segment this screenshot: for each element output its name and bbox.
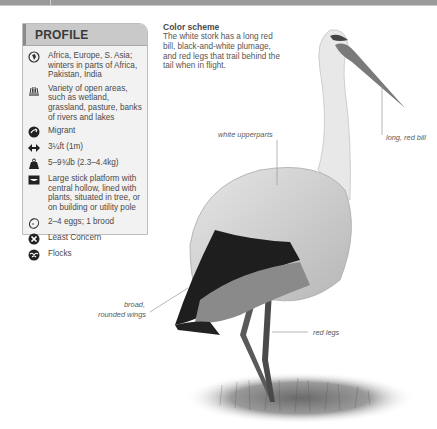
label-broad-wings-1: broad, <box>124 300 144 309</box>
label-long-red-bill: long, red bill <box>386 133 426 142</box>
white-stork-illustration <box>0 0 437 429</box>
label-broad-wings-2: rounded wings <box>96 310 146 319</box>
label-white-upperparts: white upperparts <box>218 130 273 139</box>
label-red-legs: red legs <box>313 328 339 337</box>
